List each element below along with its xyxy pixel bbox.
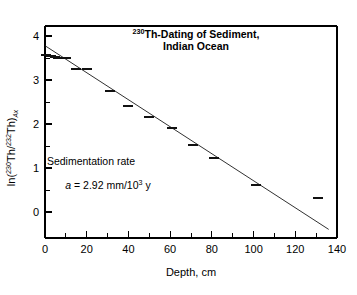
y-tick-label-2: 2 bbox=[33, 118, 39, 130]
rate-unit: y bbox=[143, 179, 152, 191]
x-tick-label-20: 20 bbox=[81, 243, 93, 255]
x-tick-label-140: 140 bbox=[328, 243, 346, 255]
svg-text:ln(230Th/232Th)Ax: ln(230Th/232Th)Ax bbox=[4, 109, 19, 186]
chart-svg: 0 20 40 60 80 100 120 140 0 1 2 bbox=[0, 0, 357, 295]
title-line1-rest: Th-Dating of Sediment, bbox=[145, 28, 260, 40]
x-axis-title: Depth, cm bbox=[166, 266, 216, 278]
chart-title-line1: 230Th-Dating of Sediment, bbox=[133, 27, 260, 40]
y-tick-label-4: 4 bbox=[33, 30, 39, 42]
ylabel-sub-ax: Ax bbox=[12, 109, 19, 118]
annotation-sedimentation-rate: Sedimentation rate bbox=[47, 155, 135, 167]
rate-equals: = 2.92 mm/10 bbox=[71, 179, 139, 191]
x-tick-label-100: 100 bbox=[244, 243, 262, 255]
x-tick-label-0: 0 bbox=[42, 243, 48, 255]
chart-title-line2: Indian Ocean bbox=[163, 40, 229, 52]
title-sup-230: 230 bbox=[133, 27, 145, 36]
y-tick-label-1: 1 bbox=[33, 162, 39, 174]
ylabel-mid2: Th) bbox=[5, 118, 17, 135]
y-axis-title: ln(230Th/232Th)Ax bbox=[4, 109, 19, 186]
y-tick-label-0: 0 bbox=[33, 206, 39, 218]
x-tick-label-80: 80 bbox=[206, 243, 218, 255]
x-tick-label-60: 60 bbox=[164, 243, 176, 255]
y-tick-label-3: 3 bbox=[33, 74, 39, 86]
chart-figure: 0 20 40 60 80 100 120 140 0 1 2 bbox=[0, 0, 357, 295]
x-tick-label-40: 40 bbox=[122, 243, 134, 255]
ylabel-sup-232: 232 bbox=[4, 134, 13, 146]
ylabel-mid1: Th/ bbox=[5, 145, 17, 162]
annotation-rate-value: a = 2.92 mm/103 y bbox=[65, 178, 151, 191]
ylabel-pre: ln( bbox=[5, 174, 17, 187]
x-tick-label-120: 120 bbox=[286, 243, 304, 255]
ylabel-sup-230: 230 bbox=[4, 162, 13, 174]
